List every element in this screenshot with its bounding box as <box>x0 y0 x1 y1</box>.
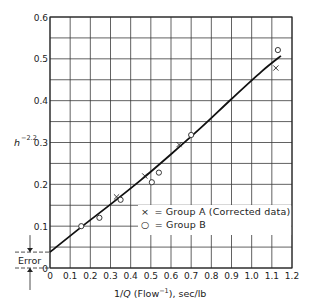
circle-marker-icon <box>275 47 280 52</box>
y-tick-label: 0.5 <box>34 54 48 64</box>
x-tick-label: 0.7 <box>184 271 198 281</box>
circle-marker-icon <box>189 132 194 137</box>
circle-marker-icon <box>118 197 123 202</box>
x-tick-label: 0.3 <box>103 271 117 281</box>
circle-marker-icon <box>149 180 154 185</box>
x-tick-label: 1.2 <box>285 271 299 281</box>
legend-item-group-a: × = Group A (Corrected data) <box>141 206 290 217</box>
x-marker-icon <box>273 65 278 70</box>
x-tick-label: 0 <box>47 271 53 281</box>
y-axis-label-exponent: −2.2 <box>21 134 37 142</box>
x-axis-label-text: 1/Q (Flow−1), sec/lb <box>114 287 206 299</box>
circle-marker-icon <box>79 224 84 229</box>
legend-item-group-b: ○ = Group B <box>141 219 206 230</box>
x-marker-icon: × <box>141 206 149 217</box>
x-tick-label: 1.1 <box>265 271 279 281</box>
circle-marker-icon <box>156 170 161 175</box>
y-axis-label-base: h <box>14 137 20 148</box>
x-tick-label: 0.5 <box>144 271 158 281</box>
y-tick-label: 0.2 <box>34 180 48 190</box>
x-axis-label: 1/Q (Flow−1), sec/lb <box>114 287 206 299</box>
y-tick-label: 0.1 <box>34 222 48 232</box>
x-tick-label: 0.9 <box>224 271 239 281</box>
circle-marker-icon: ○ <box>141 219 150 230</box>
y-tick-label: 0 <box>42 264 48 274</box>
data-markers <box>79 47 281 228</box>
x-tick-label: 0.4 <box>124 271 139 281</box>
chart: 00.10.20.30.40.50.60.70.80.91.01.11.200.… <box>0 0 313 306</box>
legend-label-group-a: = Group A (Corrected data) <box>154 206 290 217</box>
y-tick-label: 0.4 <box>34 96 49 106</box>
arrow-up-icon <box>27 268 33 272</box>
x-tick-label: 0.2 <box>83 271 97 281</box>
error-label: Error <box>18 255 41 266</box>
x-tick-label: 0.6 <box>164 271 179 281</box>
x-tick-label: 0.1 <box>63 271 77 281</box>
y-tick-label: 0.6 <box>34 13 49 23</box>
x-tick-label: 1.0 <box>245 271 260 281</box>
circle-marker-icon <box>97 215 102 220</box>
tick-labels: 00.10.20.30.40.50.60.70.80.91.01.11.200.… <box>34 13 299 282</box>
x-tick-label: 0.8 <box>204 271 219 281</box>
legend-label-group-b: = Group B <box>155 219 206 230</box>
arrow-down-icon <box>27 248 33 252</box>
